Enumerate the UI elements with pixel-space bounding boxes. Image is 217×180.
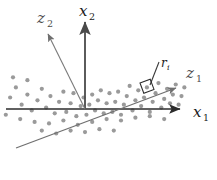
- pca-scatter-diagram: x 1 x 2 z 1 z 2 r i: [0, 0, 217, 180]
- pca-figure: x 1 x 2 z 1 z 2 r i: [0, 0, 217, 180]
- axis-z1: z 1: [16, 64, 202, 148]
- axis-z1-label: z: [185, 64, 194, 82]
- scatter-point: [83, 130, 87, 134]
- scatter-point: [69, 129, 73, 133]
- scatter-point: [90, 93, 94, 97]
- scatter-point: [11, 75, 15, 79]
- axis-x1-label: x: [193, 103, 202, 121]
- scatter-point: [57, 100, 61, 104]
- scatter-point: [174, 82, 178, 86]
- scatter-point-cloud: [4, 75, 187, 135]
- scatter-point: [47, 121, 51, 125]
- scatter-point: [156, 81, 160, 85]
- scatter-point: [33, 120, 37, 124]
- scatter-point: [168, 101, 172, 105]
- scatter-point: [148, 114, 152, 118]
- scatter-point: [112, 129, 116, 133]
- scatter-point: [35, 98, 39, 102]
- scatter-point: [84, 113, 88, 117]
- scatter-point: [119, 118, 123, 122]
- scatter-point: [107, 91, 111, 95]
- axis-z1-line: [16, 88, 176, 148]
- scatter-point: [53, 111, 57, 115]
- scatter-point: [40, 87, 44, 91]
- scatter-point: [61, 118, 65, 122]
- scatter-point: [25, 93, 29, 97]
- scatter-point: [133, 98, 137, 102]
- scatter-point: [8, 95, 12, 99]
- scatter-point: [133, 116, 137, 120]
- scatter-point: [105, 101, 109, 105]
- scatter-point: [25, 78, 29, 82]
- scatter-point: [4, 113, 8, 117]
- axis-z2-subscript: 2: [47, 18, 53, 29]
- scatter-point: [116, 90, 120, 94]
- scatter-point: [177, 103, 181, 107]
- scatter-point: [145, 85, 149, 89]
- scatter-point: [122, 103, 126, 107]
- axis-z2-line: [48, 34, 85, 109]
- scatter-point: [182, 85, 186, 89]
- scatter-point: [139, 104, 143, 108]
- scatter-point: [171, 93, 175, 97]
- scatter-point: [69, 101, 73, 105]
- axis-x2-label: x: [79, 2, 88, 20]
- scatter-point: [148, 110, 152, 114]
- scatter-point: [64, 110, 68, 114]
- scatter-point: [48, 94, 52, 98]
- axis-z1-subscript: 1: [196, 73, 202, 84]
- scatter-point: [74, 114, 78, 118]
- scatter-point: [162, 117, 166, 121]
- scatter-point: [128, 84, 132, 88]
- scatter-point: [97, 127, 101, 131]
- axis-z2-label: z: [36, 9, 45, 27]
- axis-x1-subscript: 1: [203, 112, 209, 123]
- scatter-point: [151, 100, 155, 104]
- scatter-point: [105, 117, 109, 121]
- scatter-point: [18, 117, 22, 121]
- scatter-point: [40, 129, 44, 133]
- axis-z2: z 2: [36, 9, 85, 109]
- scatter-point: [14, 85, 18, 89]
- scatter-point: [119, 113, 123, 117]
- scatter-point: [99, 88, 103, 92]
- residual-subscript: i: [167, 63, 170, 72]
- scatter-point: [179, 94, 183, 98]
- scatter-point: [125, 94, 129, 98]
- scatter-point: [71, 91, 75, 95]
- scatter-point: [20, 103, 24, 107]
- scatter-point: [79, 104, 83, 108]
- scatter-point: [136, 88, 140, 92]
- scatter-point: [87, 103, 91, 107]
- axis-x2-subscript: 2: [89, 11, 95, 22]
- scatter-point: [113, 100, 117, 104]
- scatter-point: [96, 98, 100, 102]
- scatter-point: [61, 90, 65, 94]
- scatter-point: [162, 97, 166, 101]
